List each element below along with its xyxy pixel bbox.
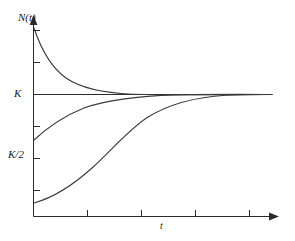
curve-growth-from-above-half-K: [34, 94, 272, 140]
chart-canvas: [0, 0, 295, 241]
half-carrying-capacity-label: K/2: [8, 149, 24, 160]
y-axis-label: N(t): [18, 12, 36, 23]
x-axis-arrowhead: [269, 213, 279, 221]
logistic-growth-figure: N(t) K K/2 t: [0, 0, 295, 241]
y-axis-ticks: [34, 31, 41, 191]
curve-decay-above-K: [34, 28, 272, 95]
x-axis-ticks: [88, 210, 250, 217]
x-axis-label: t: [160, 221, 163, 231]
curve-growth-from-small-N0: [34, 94, 272, 203]
carrying-capacity-label: K: [14, 88, 21, 99]
